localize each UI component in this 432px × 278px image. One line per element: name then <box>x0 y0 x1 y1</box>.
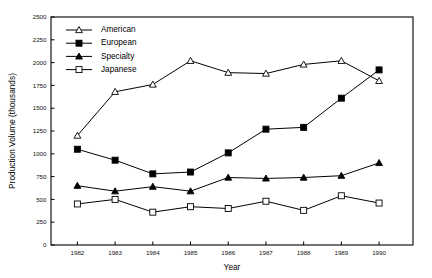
data-point-european-1985 <box>188 169 194 175</box>
x-tick-label: 1990 <box>372 249 386 256</box>
legend-item-american: American <box>66 25 136 34</box>
x-tick-label: 1988 <box>297 249 311 256</box>
x-axis-ticks: 198219831984198519861987198819891990 <box>71 242 387 257</box>
data-point-european-1983 <box>112 157 118 163</box>
x-tick-label: 1987 <box>259 249 273 256</box>
data-point-japanese-1984 <box>150 209 156 215</box>
data-point-japanese-1983 <box>112 196 118 202</box>
data-point-specialty-1984 <box>149 183 156 189</box>
legend-item-european: European <box>66 38 137 47</box>
series-line-european <box>77 70 379 174</box>
y-tick-label: 250 <box>36 218 47 225</box>
x-tick-label: 1982 <box>71 249 85 256</box>
data-point-japanese-1987 <box>263 198 269 204</box>
data-point-japanese-1989 <box>338 193 344 199</box>
data-point-japanese-1988 <box>301 207 307 213</box>
data-point-european-1989 <box>338 95 344 101</box>
x-tick-label: 1986 <box>221 249 235 256</box>
chart-legend: AmericanEuropeanSpecialtyJapanese <box>66 25 137 74</box>
legend-item-japanese: Japanese <box>66 65 137 74</box>
line-chart: 02505007501000125015001750200022502500 1… <box>0 0 432 278</box>
data-point-japanese-1986 <box>225 206 231 212</box>
legend-label-specialty: Specialty <box>101 52 135 61</box>
legend-item-specialty: Specialty <box>66 52 135 61</box>
y-tick-label: 2500 <box>33 13 47 20</box>
y-tick-label: 2250 <box>33 36 47 43</box>
series-european <box>74 67 382 177</box>
data-point-european-1987 <box>263 126 269 132</box>
chart-canvas: 02505007501000125015001750200022502500 1… <box>0 0 432 278</box>
y-axis-title: Production Volume (thousands) <box>7 73 17 189</box>
y-tick-label: 1250 <box>33 127 47 134</box>
data-point-japanese-1985 <box>188 204 194 210</box>
series-japanese <box>74 193 382 215</box>
data-point-american-1985 <box>187 57 194 63</box>
data-point-specialty-1990 <box>376 160 383 166</box>
data-point-specialty-1982 <box>74 182 81 188</box>
data-point-japanese-1990 <box>376 200 382 206</box>
data-point-american-1990 <box>376 77 383 83</box>
y-tick-label: 1500 <box>33 104 47 111</box>
legend-label-european: European <box>101 38 137 47</box>
series-layer <box>74 57 382 215</box>
x-tick-label: 1989 <box>334 249 348 256</box>
series-specialty <box>74 160 382 194</box>
x-tick-label: 1985 <box>184 249 198 256</box>
data-point-american-1989 <box>338 57 345 63</box>
legend-label-japanese: Japanese <box>101 65 137 74</box>
data-point-european-1982 <box>74 146 80 152</box>
data-point-european-1984 <box>150 171 156 177</box>
x-axis-title: Year <box>224 262 241 272</box>
y-tick-label: 750 <box>36 173 47 180</box>
y-tick-label: 1750 <box>33 82 47 89</box>
legend-label-american: American <box>101 25 136 34</box>
y-tick-label: 500 <box>36 196 47 203</box>
y-tick-label: 0 <box>43 241 47 248</box>
data-point-european-1990 <box>376 67 382 73</box>
data-point-european-1988 <box>301 124 307 130</box>
y-tick-label: 2000 <box>33 59 47 66</box>
legend-marker-japanese <box>76 67 82 73</box>
data-point-european-1986 <box>225 150 231 156</box>
data-point-american-1984 <box>149 81 156 87</box>
x-tick-label: 1983 <box>108 249 122 256</box>
data-point-japanese-1982 <box>74 201 80 207</box>
y-tick-label: 1000 <box>33 150 47 157</box>
legend-marker-european <box>76 40 82 46</box>
x-tick-label: 1984 <box>146 249 160 256</box>
